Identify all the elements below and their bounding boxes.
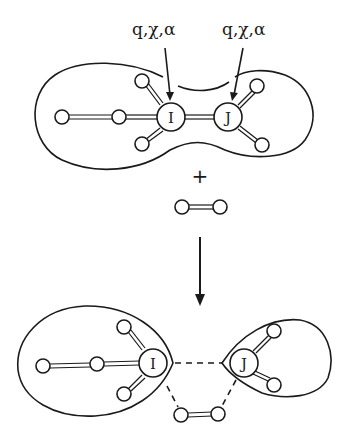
diatomic-reactant xyxy=(175,200,227,214)
atom-bottom-I-up xyxy=(117,320,131,334)
arrowhead-J xyxy=(230,92,238,101)
plus-sign: + xyxy=(192,164,209,188)
reaction-diagram: q,χ,α q,χ,α I J + xyxy=(0,0,349,448)
atom-top-2 xyxy=(112,110,126,124)
atom-bottom-J-up xyxy=(267,324,281,338)
dashed-bond-J-diatomic xyxy=(222,380,236,406)
atom-bottom-J-label: J xyxy=(239,355,247,373)
pointer-arrow-J xyxy=(234,48,243,95)
atom-bottom-J-down xyxy=(267,378,281,392)
atom-top-J-down xyxy=(255,138,269,152)
label-qxa-I: q,χ,α xyxy=(132,19,176,39)
atom-bottom-1 xyxy=(36,359,50,373)
atom-top-I-label: I xyxy=(168,109,174,127)
diatomic-bottom xyxy=(174,407,225,422)
pointer-arrow-I xyxy=(165,48,170,95)
atom-bottom-I-label: I xyxy=(150,355,156,373)
atom-top-J-label: J xyxy=(223,109,231,127)
arrowhead-I xyxy=(166,92,174,101)
reaction-arrowhead xyxy=(195,294,205,306)
label-qxa-J: q,χ,α xyxy=(222,19,266,39)
atom-top-1 xyxy=(55,110,69,124)
atom-top-I-down xyxy=(135,137,149,151)
atom-top-J-up xyxy=(250,79,264,93)
top-inner-notch xyxy=(178,82,229,91)
atom-bottom-I-down xyxy=(117,387,131,401)
atom-bottom-2 xyxy=(90,357,104,371)
atom-top-I-up xyxy=(135,74,149,88)
dashed-bond-I-diatomic xyxy=(167,386,178,407)
